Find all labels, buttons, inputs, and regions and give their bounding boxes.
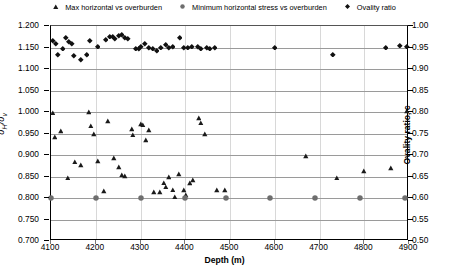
y-tick-mark-right xyxy=(408,47,413,48)
x-gridline xyxy=(275,26,276,239)
y-tick-mark-left xyxy=(44,68,49,69)
y-tick-label-right: 0.55 xyxy=(412,215,449,223)
y-gridline xyxy=(51,91,407,92)
y-tick-mark-right xyxy=(408,197,413,198)
y-tick-label-left: 1.050 xyxy=(0,86,39,94)
legend-label: Max horizontal vs overburden xyxy=(65,4,162,12)
plot-area xyxy=(50,25,408,240)
x-axis-title: Depth (m) xyxy=(0,255,449,265)
chart-legend: Max horizontal vs overburdenMinimum hori… xyxy=(0,2,449,14)
x-tick-label: 4300 xyxy=(120,243,160,252)
y-axis-left-title: σH/σv xyxy=(0,113,8,135)
y-tick-mark-left xyxy=(44,47,49,48)
y-tick-mark-left xyxy=(44,111,49,112)
y-tick-label-left: 0.900 xyxy=(0,150,39,158)
y-tick-mark-left xyxy=(44,25,49,26)
legend-item-0[interactable]: Max horizontal vs overburden xyxy=(53,4,162,12)
x-tick-label: 4700 xyxy=(299,243,339,252)
y-tick-label-left: 0.850 xyxy=(0,172,39,180)
y-tick-mark-left xyxy=(44,219,49,220)
y-gridline xyxy=(51,112,407,113)
legend-item-1[interactable]: Minimum horizontal stress vs overburden xyxy=(180,4,327,12)
y-tick-mark-right xyxy=(408,90,413,91)
y-tick-label-left: 0.750 xyxy=(0,215,39,223)
y-tick-mark-left xyxy=(44,90,49,91)
y-tick-mark-right xyxy=(408,25,413,26)
y-tick-label-right: 1.00 xyxy=(412,21,449,29)
y-tick-mark-right xyxy=(408,240,413,241)
y-tick-label-right: 0.50 xyxy=(412,236,449,244)
y-gridline xyxy=(51,69,407,70)
triangle-marker-icon xyxy=(53,4,61,12)
x-gridline xyxy=(320,26,321,239)
x-gridline xyxy=(141,26,142,239)
y-gridline xyxy=(51,48,407,49)
x-tick-label: 4500 xyxy=(209,243,249,252)
x-tick-label: 4400 xyxy=(164,243,204,252)
x-gridline xyxy=(185,26,186,239)
y-gridline xyxy=(51,134,407,135)
y-tick-mark-right xyxy=(408,68,413,69)
y-tick-label-right: 0.85 xyxy=(412,86,449,94)
y-tick-mark-left xyxy=(44,240,49,241)
y-tick-label-right: 0.80 xyxy=(412,107,449,115)
x-gridline xyxy=(364,26,365,239)
legend-label: Minimum horizontal stress vs overburden xyxy=(192,4,327,12)
y-tick-label-right: 0.95 xyxy=(412,43,449,51)
y-tick-label-left: 0.700 xyxy=(0,236,39,244)
y-tick-mark-right xyxy=(408,219,413,220)
x-gridline xyxy=(230,26,231,239)
y-tick-label-right: 0.65 xyxy=(412,172,449,180)
y-tick-label-left: 1.100 xyxy=(0,64,39,72)
y-gridline xyxy=(51,220,407,221)
y-tick-label-right: 0.75 xyxy=(412,129,449,137)
y-tick-mark-left xyxy=(44,176,49,177)
scatter-chart: Max horizontal vs overburdenMinimum hori… xyxy=(0,0,449,276)
y-gridline xyxy=(51,198,407,199)
y-tick-mark-left xyxy=(44,133,49,134)
x-tick-label: 4600 xyxy=(254,243,294,252)
y-gridline xyxy=(51,177,407,178)
y-axis-right-title: Ovality ratio, c xyxy=(402,105,412,164)
x-tick-label: 4200 xyxy=(75,243,115,252)
y-tick-label-right: 0.70 xyxy=(412,150,449,158)
y-tick-label-left: 0.800 xyxy=(0,193,39,201)
legend-item-2[interactable]: Ovality ratio xyxy=(345,4,396,12)
y-tick-mark-right xyxy=(408,176,413,177)
diamond-marker-icon xyxy=(345,4,353,12)
y-tick-mark-left xyxy=(44,197,49,198)
y-tick-label-right: 0.90 xyxy=(412,64,449,72)
y-gridline xyxy=(51,155,407,156)
x-tick-label: 4800 xyxy=(343,243,383,252)
legend-label: Ovality ratio xyxy=(357,4,396,12)
circle-marker-icon xyxy=(180,4,188,12)
y-tick-label-left: 1.200 xyxy=(0,21,39,29)
y-tick-label-right: 0.60 xyxy=(412,193,449,201)
y-tick-label-left: 1.150 xyxy=(0,43,39,51)
y-tick-mark-left xyxy=(44,154,49,155)
y-left-sigma-h: σH/σv xyxy=(0,113,6,135)
